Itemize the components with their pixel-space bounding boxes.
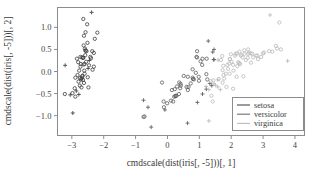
y-axis-title: cmdscale(dist(iris[, -5]))[, 2]: [3, 17, 14, 126]
x-tick-label: 2: [229, 140, 233, 150]
x-tick-label: −2: [99, 140, 108, 150]
x-tick-label: 3: [261, 140, 265, 150]
figure-container: −3−2−101234 −1.0−0.50.00.51.0 cmdscale(d…: [0, 0, 321, 180]
legend-label-setosa: setosa: [254, 101, 274, 110]
legend-label-versicolor: versicolor: [254, 110, 287, 119]
x-tick-label: 0: [165, 140, 169, 150]
scatter-plot: −3−2−101234 −1.0−0.50.00.51.0 cmdscale(d…: [0, 0, 321, 180]
y-tick-label: 0.0: [41, 67, 52, 77]
legend-label-virginica: virginica: [254, 119, 283, 128]
y-tick-label: 0.5: [41, 44, 52, 54]
x-axis-title: cmdscale(dist(iris[, -5]))[, 1]: [127, 158, 236, 169]
x-tick-label: −3: [67, 140, 76, 150]
chart-legend: setosaversicolorvirginica: [233, 98, 304, 131]
x-tick-label: 1: [197, 140, 201, 150]
x-tick-label: −1: [131, 140, 140, 150]
y-tick-label: −0.5: [36, 89, 51, 99]
x-tick-label: 4: [293, 140, 298, 150]
y-tick-label: −1.0: [36, 111, 51, 121]
y-tick-label: 1.0: [41, 22, 52, 32]
